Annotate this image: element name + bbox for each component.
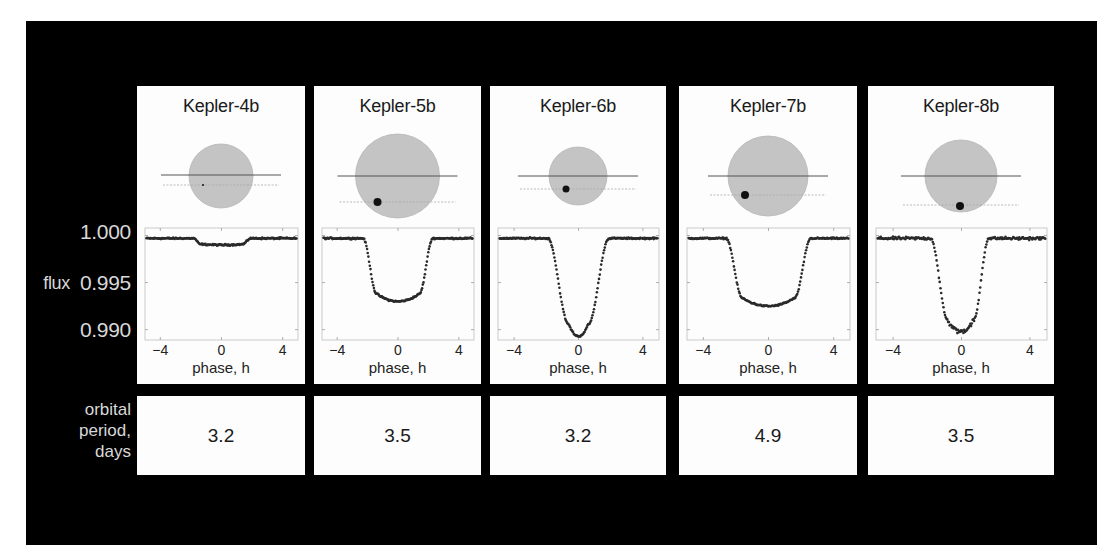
y-tick-0990: 0.990 [80, 319, 131, 340]
x-tick-label: −4 [878, 342, 908, 358]
flux-data-points [687, 236, 849, 308]
star-icon [189, 144, 253, 208]
y-axis-label: flux [43, 274, 70, 292]
flux-data-points [876, 235, 1046, 334]
period-value: 3.5 [948, 425, 974, 447]
x-tick-label: 0 [383, 342, 413, 358]
panel-graphics [868, 86, 1054, 384]
plot-frame [687, 228, 850, 340]
transit-diagram [708, 136, 828, 216]
period-box: 3.5 [868, 396, 1054, 475]
panel-graphics [137, 86, 305, 384]
x-tick-label: 0 [754, 342, 784, 358]
light-curve-plot [145, 228, 298, 340]
period-value: 3.2 [565, 425, 591, 447]
x-axis-label: phase, h [679, 359, 857, 376]
x-tick-label: 4 [628, 342, 658, 358]
x-tick-label: 4 [819, 342, 849, 358]
period-box: 4.9 [679, 396, 857, 475]
x-axis-label: phase, h [314, 359, 481, 376]
light-curve-plot [498, 228, 659, 340]
planet-icon [956, 202, 964, 210]
period-label-line-1: orbital [79, 399, 131, 420]
panel-graphics [679, 86, 857, 384]
transit-diagram [338, 134, 458, 218]
x-tick-label: −4 [499, 342, 529, 358]
plot-frame [322, 228, 474, 340]
x-tick-label: −4 [688, 342, 718, 358]
panel-graphics [490, 86, 666, 384]
plot-frame [498, 228, 659, 340]
y-tick-1000: 1.000 [80, 221, 131, 242]
x-tick-label: 0 [564, 342, 594, 358]
planet-icon [202, 184, 204, 186]
period-box: 3.2 [490, 396, 666, 475]
period-box: 3.2 [137, 396, 305, 475]
x-tick-label: −4 [322, 342, 352, 358]
planet-panel: Kepler-8b−404phase, h [868, 86, 1054, 384]
period-value: 3.2 [208, 425, 234, 447]
period-value: 3.5 [384, 425, 410, 447]
planet-panel: Kepler-6b−404phase, h [490, 86, 666, 384]
light-curve-plot [876, 228, 1047, 340]
transit-diagram [518, 147, 638, 205]
planet-icon [741, 191, 749, 199]
transit-diagram [161, 144, 281, 208]
x-axis-label: phase, h [490, 359, 666, 376]
planet-panel: Kepler-7b−404phase, h [679, 86, 857, 384]
x-tick-label: 4 [1015, 342, 1045, 358]
period-value: 4.9 [755, 425, 781, 447]
x-tick-label: 0 [947, 342, 977, 358]
plot-frame [876, 228, 1047, 340]
x-axis-label: phase, h [868, 359, 1054, 376]
planet-icon [563, 186, 570, 193]
flux-data-points [498, 236, 658, 338]
planet-panel: Kepler-5b−404phase, h [314, 86, 481, 384]
transit-diagram [901, 140, 1021, 212]
period-label-line-3: days [79, 441, 131, 462]
flux-data-points [145, 236, 298, 247]
period-box: 3.5 [314, 396, 481, 475]
period-row-label: orbital period, days [79, 399, 131, 462]
light-curve-plot [322, 228, 474, 340]
x-tick-label: 4 [444, 342, 474, 358]
y-tick-0995: 0.995 [80, 272, 131, 293]
x-tick-label: 4 [268, 342, 298, 358]
x-tick-label: 0 [207, 342, 237, 358]
light-curve-plot [687, 228, 850, 340]
planet-panel: Kepler-4b−404phase, h [137, 86, 305, 384]
period-label-line-2: period, [79, 420, 131, 441]
x-tick-label: −4 [145, 342, 175, 358]
x-axis-label: phase, h [137, 359, 305, 376]
flux-data-points [322, 236, 474, 303]
planet-icon [374, 198, 382, 206]
panel-graphics [314, 86, 481, 384]
